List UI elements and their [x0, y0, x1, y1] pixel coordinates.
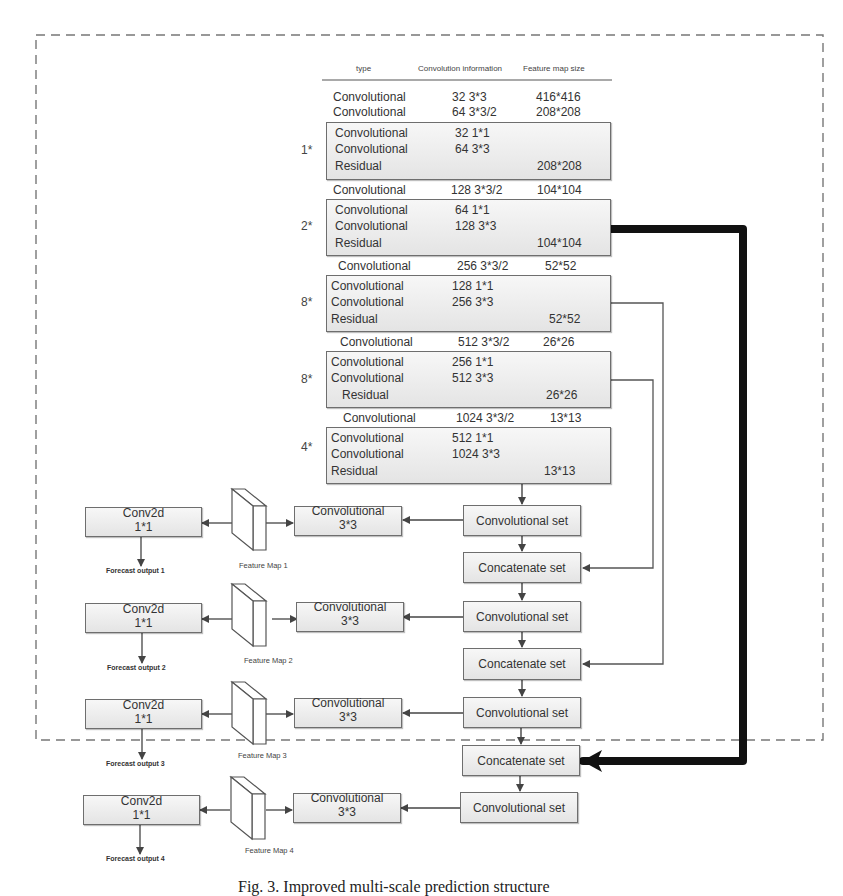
feature-map-label-2: Feature Map 2 [244, 656, 293, 665]
row-type: Convolutional [338, 259, 411, 273]
conv2d-kernel: 1*1 [132, 808, 150, 822]
cell-info: 64 1*1 [455, 203, 490, 217]
row-info: 64 3*3/2 [452, 105, 497, 119]
cell-type: Residual [331, 312, 378, 326]
conv2d-label: Conv2d [123, 506, 164, 520]
conv2d-label: Conv2d [121, 794, 162, 808]
row-type: Convolutional [333, 90, 406, 104]
row-type: Convolutional [340, 335, 413, 349]
feature-map-label-3: Feature Map 3 [238, 751, 287, 760]
cell-size: 52*52 [549, 312, 580, 326]
cell-info: 64 3*3 [455, 142, 490, 156]
concatenate-set-3: Concatenate set [462, 745, 580, 776]
row-type: Convolutional [343, 411, 416, 425]
forecast-output-3: Forecast output 3 [106, 760, 165, 767]
convolutional-set-1: Convolutional set [463, 505, 581, 536]
row-info: 256 3*3/2 [457, 259, 508, 273]
row-info: 512 3*3/2 [458, 335, 509, 349]
repeat-count: 8* [301, 372, 312, 386]
feature-map-4-icon [231, 777, 265, 839]
conv3x3-kernel: 3*3 [339, 518, 357, 532]
conv2d-label: Conv2d [123, 602, 164, 616]
row-size: 52*52 [545, 259, 576, 273]
row-size: 104*104 [537, 183, 582, 197]
feature-map-2-icon [232, 584, 266, 646]
convolutional-set-3: Convolutional set [463, 697, 581, 728]
convolutional-set-2: Convolutional set [463, 601, 581, 632]
row-type: Convolutional [333, 183, 406, 197]
conv3x3-label: Convolutional [312, 696, 385, 710]
residual-block-4: Convolutional 256 1*1 Convolutional 512 … [326, 351, 611, 408]
row-info: 128 3*3/2 [451, 183, 502, 197]
conv2d-box-2: Conv2d 1*1 [85, 603, 202, 633]
conv3x3-box-1: Convolutional 3*3 [294, 506, 402, 536]
table-header-type: type [356, 64, 371, 73]
table-header-feature-map-size: Feature map size [523, 64, 585, 73]
conv3x3-kernel: 3*3 [338, 805, 356, 819]
row-size: 416*416 [536, 90, 581, 104]
row-info: 1024 3*3/2 [456, 411, 514, 425]
forecast-output-2: Forecast output 2 [107, 664, 166, 671]
cell-info: 128 3*3 [455, 219, 496, 233]
cell-size: 208*208 [537, 159, 582, 173]
conv2d-box-1: Conv2d 1*1 [85, 507, 202, 537]
cell-type: Residual [331, 464, 378, 478]
conv2d-kernel: 1*1 [134, 712, 152, 726]
cell-info: 1024 3*3 [452, 447, 500, 461]
convolutional-set-4: Convolutional set [460, 792, 578, 823]
residual-block-5: Convolutional 512 1*1 Convolutional 1024… [326, 427, 611, 484]
feature-map-1-icon [232, 489, 266, 550]
repeat-count: 4* [301, 440, 312, 454]
cell-size: 13*13 [544, 464, 575, 478]
conv3x3-box-2: Convolutional 3*3 [296, 602, 404, 632]
conv3x3-box-4: Convolutional 3*3 [293, 793, 401, 823]
cell-info: 256 1*1 [452, 355, 493, 369]
conv3x3-label: Convolutional [314, 600, 387, 614]
cell-type: Convolutional [331, 447, 404, 461]
conv2d-kernel: 1*1 [134, 616, 152, 630]
cell-type: Residual [342, 388, 389, 402]
cell-info: 32 1*1 [455, 126, 490, 140]
cell-type: Convolutional [335, 142, 408, 156]
forecast-output-4: Forecast output 4 [106, 855, 165, 862]
conv3x3-kernel: 3*3 [339, 710, 357, 724]
conv2d-box-4: Conv2d 1*1 [83, 795, 200, 825]
forecast-output-1: Forecast output 1 [106, 567, 165, 574]
cell-size: 104*104 [537, 236, 582, 250]
cell-type: Convolutional [331, 355, 404, 369]
feature-map-3-icon [232, 682, 266, 744]
cell-info: 512 1*1 [452, 431, 493, 445]
cell-type: Convolutional [335, 126, 408, 140]
row-type: Convolutional [333, 105, 406, 119]
conv3x3-kernel: 3*3 [341, 614, 359, 628]
residual-block-1: Convolutional 32 1*1 Convolutional 64 3*… [326, 122, 611, 180]
repeat-count: 1* [301, 143, 312, 157]
cell-info: 512 3*3 [452, 371, 493, 385]
residual-block-2: Convolutional 64 1*1 Convolutional 128 3… [326, 199, 611, 256]
row-info: 32 3*3 [452, 90, 487, 104]
cell-type: Convolutional [331, 295, 404, 309]
cell-type: Convolutional [335, 203, 408, 217]
repeat-count: 2* [301, 219, 312, 233]
cell-type: Convolutional [331, 371, 404, 385]
figure-caption: Fig. 3. Improved multi-scale prediction … [238, 878, 549, 896]
conv2d-kernel: 1*1 [134, 520, 152, 534]
repeat-count: 8* [301, 295, 312, 309]
conv2d-box-3: Conv2d 1*1 [85, 699, 202, 729]
cell-type: Convolutional [331, 431, 404, 445]
conv3x3-label: Convolutional [312, 504, 385, 518]
row-size: 26*26 [543, 335, 574, 349]
feature-map-label-4: Feature Map 4 [245, 846, 294, 855]
cell-type: Residual [335, 159, 382, 173]
residual-block-3: Convolutional 128 1*1 Convolutional 256 … [326, 275, 611, 332]
concatenate-set-1: Concatenate set [463, 552, 581, 583]
cell-type: Convolutional [335, 219, 408, 233]
table-header-conv-info: Convolution information [418, 64, 502, 73]
conv3x3-box-3: Convolutional 3*3 [294, 698, 402, 728]
concatenate-set-2: Concatenate set [463, 648, 581, 680]
cell-type: Convolutional [331, 279, 404, 293]
cell-info: 256 3*3 [452, 295, 493, 309]
conv2d-label: Conv2d [123, 698, 164, 712]
cell-type: Residual [335, 236, 382, 250]
cell-info: 128 1*1 [452, 279, 493, 293]
